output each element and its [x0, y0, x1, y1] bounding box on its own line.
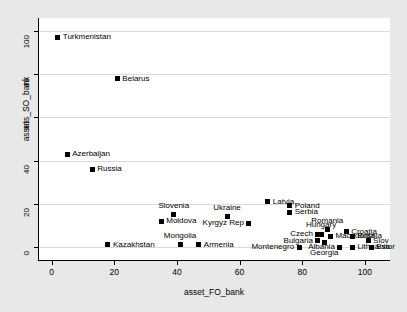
data-point-marker — [369, 245, 374, 250]
data-point-label: Turkmenistan — [63, 33, 111, 41]
data-point-marker — [319, 232, 324, 237]
y-tick-mark — [34, 74, 39, 75]
data-point-marker — [287, 203, 292, 208]
x-tick-mark — [240, 260, 241, 265]
y-tick-mark — [34, 247, 39, 248]
data-point-label: Estor — [376, 243, 395, 251]
y-tick-mark — [34, 117, 39, 118]
x-axis-title: asset_FO_bank — [38, 287, 390, 297]
data-point-marker — [246, 221, 251, 226]
data-point-marker — [337, 245, 342, 250]
data-point-label: Hungary — [306, 221, 336, 229]
data-point-label: Slovenia — [158, 202, 189, 210]
x-tick-mark — [365, 260, 366, 265]
data-point-label: Kyrgyz Rep — [203, 219, 244, 227]
data-point-marker — [350, 245, 355, 250]
data-point-marker — [65, 152, 70, 157]
y-tick-label: 20 — [23, 208, 31, 217]
data-point-marker — [105, 242, 110, 247]
data-point-marker — [159, 219, 164, 224]
data-point-marker — [350, 234, 355, 239]
x-tick-mark — [302, 260, 303, 265]
x-tick-label: 80 — [298, 268, 307, 277]
data-point-label: Montenegro — [251, 243, 294, 251]
data-point-label: Belarus — [122, 75, 149, 83]
data-point-label: Moldova — [166, 217, 196, 225]
plot-area: 020406080100020406080100TurkmenistanBela… — [38, 18, 390, 261]
y-tick-label: 80 — [23, 78, 31, 87]
y-tick-label: 0 — [23, 251, 31, 255]
y-tick-label: 60 — [23, 121, 31, 130]
data-point-marker — [178, 242, 183, 247]
scatter-plot-figure: assets_SO_bank 020406080100020406080100T… — [0, 0, 407, 312]
data-point-label: Azerbaijan — [72, 150, 110, 158]
y-tick-mark — [34, 204, 39, 205]
data-point-marker — [265, 199, 270, 204]
data-point-marker — [328, 234, 333, 239]
data-point-marker — [90, 167, 95, 172]
data-point-marker — [55, 35, 60, 40]
x-tick-label: 20 — [109, 268, 118, 277]
data-point-marker — [297, 245, 302, 250]
data-point-label: Kazakhstan — [113, 241, 155, 249]
x-tick-label: 0 — [49, 268, 54, 277]
y-tick-label: 40 — [23, 165, 31, 174]
x-tick-mark — [52, 260, 53, 265]
y-gridline — [39, 74, 390, 75]
y-tick-mark — [34, 161, 39, 162]
x-tick-mark — [177, 260, 178, 265]
data-point-marker — [287, 210, 292, 215]
y-gridline — [39, 117, 390, 118]
x-tick-label: 40 — [172, 268, 181, 277]
data-point-marker — [196, 242, 201, 247]
x-tick-label: 60 — [235, 268, 244, 277]
y-tick-label: 100 — [23, 35, 31, 48]
x-tick-mark — [114, 260, 115, 265]
y-gridline — [39, 161, 390, 162]
y-tick-mark — [34, 31, 39, 32]
data-point-label: Albania — [308, 243, 335, 251]
data-point-label: Ukraine — [213, 204, 241, 212]
data-point-marker — [115, 76, 120, 81]
data-point-label: Russia — [97, 165, 121, 173]
data-point-label: Armenia — [204, 241, 234, 249]
data-point-label: Mongolia — [164, 232, 196, 240]
x-tick-label: 100 — [358, 268, 372, 277]
